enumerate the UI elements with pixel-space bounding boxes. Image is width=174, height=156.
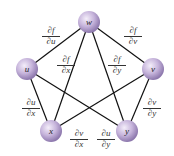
label-df-dx: ∂f∂x — [57, 55, 75, 75]
node-y: y — [116, 120, 138, 142]
node-u: u — [16, 58, 38, 80]
label-dv-dy: ∂v∂y — [143, 98, 161, 118]
label-dv-dx: ∂v∂x — [70, 129, 88, 149]
edge-u-y — [27, 69, 127, 131]
svg-text:u: u — [25, 64, 30, 74]
svg-text:w: w — [86, 17, 92, 27]
svg-text:y: y — [124, 126, 129, 136]
node-v: v — [142, 58, 164, 80]
node-w: w — [78, 11, 100, 33]
derivative-diagram: w u v x y ∂f∂u ∂f∂v ∂f∂x ∂f∂y ∂u∂x ∂v∂y … — [0, 0, 174, 156]
label-df-dv: ∂f∂v — [124, 26, 142, 46]
edge-v-x — [51, 69, 153, 131]
label-du-dy: ∂u∂y — [97, 129, 115, 149]
label-du-dx: ∂u∂x — [22, 98, 40, 118]
svg-text:x: x — [48, 126, 53, 136]
svg-text:v: v — [151, 64, 155, 74]
edge-w-y — [89, 22, 127, 131]
label-df-du: ∂f∂u — [42, 26, 60, 46]
node-x: x — [40, 120, 62, 142]
label-df-dy: ∂f∂y — [108, 55, 126, 75]
